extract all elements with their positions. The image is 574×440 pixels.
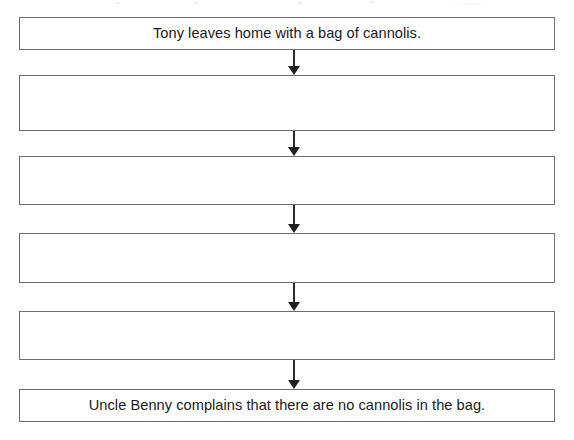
scan-artifact-top-edge [0, 0, 574, 9]
arrow-shaft-4 [293, 283, 295, 303]
arrow-down-icon-5 [287, 360, 301, 389]
flow-step-box-6[interactable]: Uncle Benny complains that there are no … [19, 389, 555, 422]
flow-step-box-1[interactable]: Tony leaves home with a bag of cannolis. [19, 17, 555, 50]
arrow-down-icon-4 [287, 283, 301, 311]
arrow-down-icon-2 [287, 131, 301, 156]
arrow-down-icon-1 [287, 50, 301, 75]
flow-step-box-3[interactable] [19, 156, 555, 205]
arrow-down-icon-3 [287, 205, 301, 233]
arrow-head-3 [288, 224, 300, 233]
arrow-shaft-1 [293, 50, 295, 67]
flow-step-box-5[interactable] [19, 311, 555, 360]
flow-step-text-6: Uncle Benny complains that there are no … [89, 397, 485, 415]
flow-step-box-2[interactable] [19, 75, 555, 131]
arrow-head-2 [288, 147, 300, 156]
flow-step-text-1: Tony leaves home with a bag of cannolis. [153, 25, 421, 43]
arrow-shaft-3 [293, 205, 295, 225]
arrow-shaft-2 [293, 131, 295, 148]
arrow-shaft-5 [293, 360, 295, 381]
flow-step-box-4[interactable] [19, 233, 555, 283]
arrow-head-5 [288, 380, 300, 389]
arrow-head-4 [288, 302, 300, 311]
arrow-head-1 [288, 66, 300, 75]
worksheet-page: Tony leaves home with a bag of cannolis. [0, 0, 574, 440]
